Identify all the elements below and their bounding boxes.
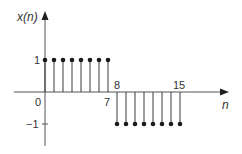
x-tick-label-origin: 0 bbox=[35, 97, 41, 108]
stem-marker bbox=[106, 58, 111, 63]
stem-marker bbox=[151, 122, 156, 127]
y-axis-label: x(n) bbox=[17, 11, 38, 23]
y-tick-label-neg: −1 bbox=[26, 119, 39, 130]
x-axis-arrow-icon bbox=[220, 89, 229, 96]
stem-marker bbox=[88, 58, 93, 63]
y-axis-arrow-icon bbox=[42, 11, 49, 20]
x-axis-label: n bbox=[222, 99, 229, 111]
x-tick-label-15: 15 bbox=[173, 80, 185, 91]
y-tick-label-pos: 1 bbox=[34, 55, 40, 66]
stem-marker bbox=[133, 122, 138, 127]
stem-marker bbox=[79, 58, 84, 63]
x-tick-label-8: 8 bbox=[114, 80, 120, 91]
x-tick-label-7: 7 bbox=[104, 97, 110, 108]
stem-marker bbox=[97, 58, 102, 63]
stem-marker bbox=[52, 58, 57, 63]
stem-marker bbox=[115, 122, 120, 127]
axes bbox=[14, 11, 229, 146]
stem-marker bbox=[124, 122, 129, 127]
stem-marker bbox=[178, 122, 183, 127]
stem-marker bbox=[43, 58, 48, 63]
stem-marker bbox=[61, 58, 66, 63]
stem-marker bbox=[142, 122, 147, 127]
stem-marker bbox=[70, 58, 75, 63]
stem-marker bbox=[160, 122, 165, 127]
stem-marker bbox=[169, 122, 174, 127]
